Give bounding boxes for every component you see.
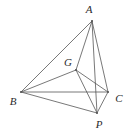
vertex-point-b <box>20 91 22 93</box>
vertex-label-p: P <box>96 119 103 130</box>
vertex-label-a: A <box>86 4 93 15</box>
vertex-point-c <box>107 91 109 93</box>
edge-ac <box>92 21 108 92</box>
vertex-point-p <box>96 112 98 114</box>
edge-bp <box>21 92 97 113</box>
vertex-point-g <box>75 69 77 71</box>
edge-gp <box>76 70 97 113</box>
vertex-point-a <box>91 20 93 22</box>
edge-bg <box>21 70 76 92</box>
vertex-label-g: G <box>64 57 72 68</box>
vertex-label-c: C <box>115 93 122 104</box>
vertex-label-b: B <box>10 96 17 107</box>
edge-ap <box>92 21 97 113</box>
edge-ag <box>76 21 92 70</box>
geometry-figure: ABCPG <box>0 0 130 134</box>
edge-cg <box>76 70 108 92</box>
edge-cp <box>97 92 108 113</box>
